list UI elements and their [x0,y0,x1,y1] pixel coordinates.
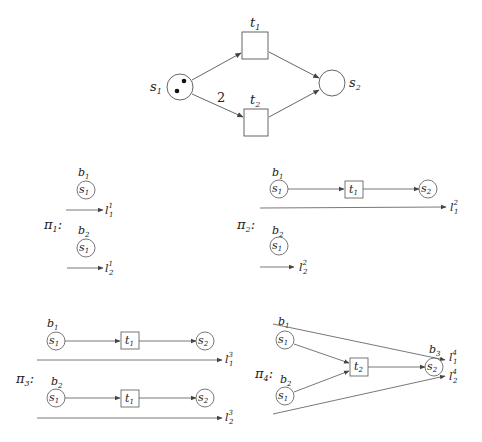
label-b2: b2 [280,373,292,388]
label-pi4: π4: [254,366,273,383]
line-l2 [273,376,445,414]
arc-t2-s2 [269,90,319,117]
arc [294,371,349,392]
label-s1: s1 [150,79,162,96]
line-l1 [260,207,446,208]
process-pi2: b1 s1 t1 s2 l21 π2: b2 s1 l22 [236,166,459,276]
label-s2: s2 [349,75,361,92]
transition-t1 [242,32,268,59]
token [175,89,180,94]
label-b1: b1 [278,315,290,330]
label-b1: b1 [47,317,59,332]
label-pi2: π2: [236,217,255,234]
token [182,79,187,84]
arc-t1-s2 [269,52,319,78]
petri-net [167,32,345,136]
label-l2: l12 [105,260,114,277]
label-l1: l11 [105,202,113,219]
process-pi3: b1 s1 t1 s2 l31 π3: b2 s1 t1 s2 l32 [15,317,234,426]
label-l1: l31 [225,351,234,368]
process-pi1: b1 s1 l11 π1: b2 s1 l12 [43,166,114,277]
place-s2 [319,70,345,96]
label-l2: l22 [299,259,308,276]
label-pi3: π3: [15,371,34,388]
label-l1: l21 [450,199,459,216]
arc-weight: 2 [217,90,225,105]
transition-t2 [244,109,268,136]
label-l2: l42 [449,368,458,385]
label-l2: l32 [225,409,234,426]
label-t2: t2 [250,92,260,109]
label-t1: t1 [250,15,260,32]
petri-net-diagram: s1 s2 t1 t2 2 b1 s1 l11 π1: b2 s1 l12 b1… [0,0,482,442]
label-b1: b1 [78,166,90,181]
label-b2: b2 [78,224,90,239]
place-s1 [167,74,193,100]
line-l1 [273,324,445,360]
arc [294,344,349,363]
process-pi4: b1 s1 t2 b3 s2 l41 π4: b2 s1 l42 [254,315,458,414]
arc-s1-t1 [192,53,241,80]
label-l1: l41 [449,349,457,366]
label-b2: b2 [51,375,63,390]
label-pi1: π1: [43,217,62,234]
label-b3: b3 [429,343,441,358]
label-b1: b1 [272,166,284,181]
